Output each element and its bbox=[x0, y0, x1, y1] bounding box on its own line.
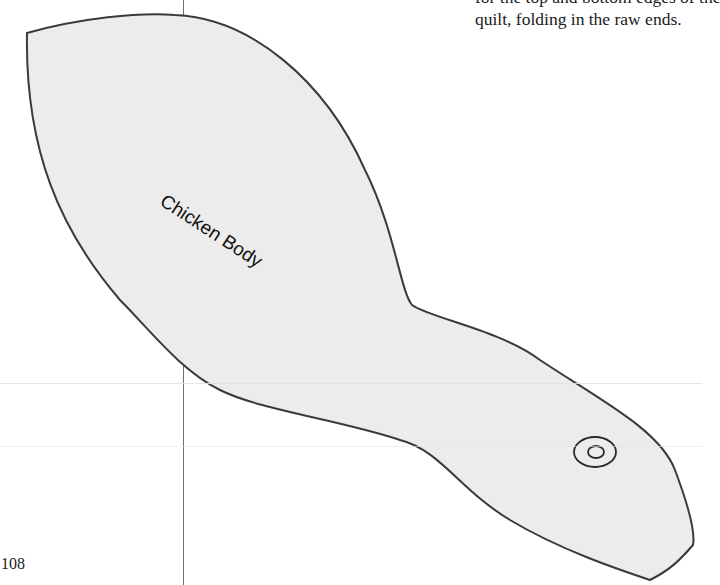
pattern-outline bbox=[27, 14, 694, 580]
page-number: 108 bbox=[1, 555, 25, 573]
scan-artifact-line bbox=[0, 446, 702, 447]
scan-artifact-line bbox=[0, 383, 702, 384]
